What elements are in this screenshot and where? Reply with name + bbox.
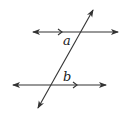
parallel-lines-diagram: a b [0,0,127,113]
angle-b-label: b [63,69,71,84]
transversal-line [38,10,93,108]
angle-a-label: a [63,33,71,48]
